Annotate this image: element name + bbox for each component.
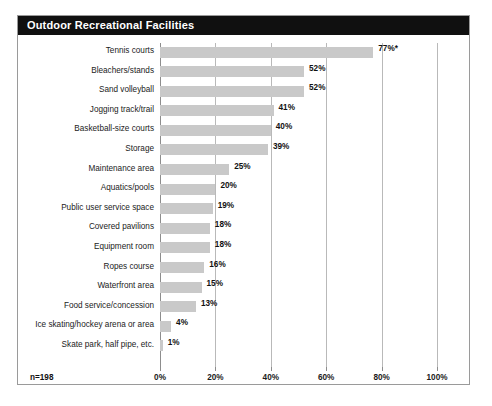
bar-value-label: 18% xyxy=(215,220,231,229)
bar-category-label: Skate park, half pipe, etc. xyxy=(0,340,154,349)
bar-category-label: Sand volleyball xyxy=(0,85,154,94)
bar-category-label: Covered pavilions xyxy=(0,222,154,231)
bar xyxy=(160,340,163,351)
x-tick-label: 80% xyxy=(373,373,389,382)
bar-row: Tennis courts77%* xyxy=(18,43,469,63)
bar-container xyxy=(160,321,171,332)
bar-container xyxy=(160,86,304,97)
x-tick xyxy=(437,367,438,371)
bar-value-label: 1% xyxy=(168,338,180,347)
bar-container xyxy=(160,47,373,58)
bar-row: Ropes course16% xyxy=(18,259,469,279)
bar-container xyxy=(160,340,163,351)
bar-category-label: Tennis courts xyxy=(0,46,154,55)
bar-row: Maintenance area25% xyxy=(18,161,469,181)
page-title: Outdoor Recreational Facilities xyxy=(27,19,194,31)
bar-row: Aquatics/pools20% xyxy=(18,180,469,200)
bar-value-label: 77%* xyxy=(378,44,398,53)
bar xyxy=(160,66,304,77)
chart-card: Outdoor Recreational Facilities Tennis c… xyxy=(17,15,470,385)
bar xyxy=(160,144,268,155)
bar-container xyxy=(160,223,210,234)
x-tick-label: 0% xyxy=(154,373,166,382)
bar-category-label: Food service/concession xyxy=(0,301,154,310)
bar xyxy=(160,86,304,97)
bar-row: Jogging track/trail41% xyxy=(18,102,469,122)
bar xyxy=(160,282,202,293)
bar-value-label: 20% xyxy=(220,181,236,190)
bar-category-label: Maintenance area xyxy=(0,164,154,173)
screenshot-root: Outdoor Recreational Facilities Tennis c… xyxy=(0,0,492,406)
bar-container xyxy=(160,125,271,136)
bar xyxy=(160,105,274,116)
chart-title-bar: Outdoor Recreational Facilities xyxy=(18,16,469,35)
x-tick xyxy=(382,367,383,371)
bar-value-label: 25% xyxy=(234,162,250,171)
bar-value-label: 13% xyxy=(201,299,217,308)
x-tick xyxy=(326,367,327,371)
x-tick-label: 40% xyxy=(263,373,279,382)
x-tick xyxy=(271,367,272,371)
bar-category-label: Bleachers/stands xyxy=(0,66,154,75)
bar-value-label: 16% xyxy=(209,260,225,269)
bar-container xyxy=(160,203,213,214)
bar xyxy=(160,184,215,195)
bar xyxy=(160,203,213,214)
bar-row: Public user service space19% xyxy=(18,200,469,220)
bar-value-label: 18% xyxy=(215,240,231,249)
x-axis: 0%20%40%60%80%100% xyxy=(160,367,437,387)
sample-size-note: n=198 xyxy=(30,373,53,382)
bar-value-label: 52% xyxy=(309,83,325,92)
bar xyxy=(160,301,196,312)
bar-value-label: 19% xyxy=(218,201,234,210)
bar xyxy=(160,47,373,58)
bar-row: Waterfront area15% xyxy=(18,278,469,298)
bar xyxy=(160,321,171,332)
x-tick-label: 20% xyxy=(207,373,223,382)
bar-row: Basketball-size courts40% xyxy=(18,121,469,141)
bar-category-label: Basketball-size courts xyxy=(0,124,154,133)
bar-category-label: Waterfront area xyxy=(0,281,154,290)
bar-container xyxy=(160,144,268,155)
bar-value-label: 4% xyxy=(176,318,188,327)
bar-row: Ice skating/hockey arena or area4% xyxy=(18,317,469,337)
bar-category-label: Public user service space xyxy=(0,203,154,212)
bar-row: Storage39% xyxy=(18,141,469,161)
bar xyxy=(160,262,204,273)
bar-value-label: 41% xyxy=(279,103,295,112)
bar xyxy=(160,125,271,136)
bar-container xyxy=(160,262,204,273)
bar-category-label: Storage xyxy=(0,144,154,153)
bar-container xyxy=(160,301,196,312)
x-tick-label: 60% xyxy=(318,373,334,382)
x-tick xyxy=(215,367,216,371)
bar-rows: Tennis courts77%*Bleachers/stands52%Sand… xyxy=(18,43,469,357)
bar xyxy=(160,223,210,234)
bar-container xyxy=(160,66,304,77)
bar-container xyxy=(160,164,229,175)
bar xyxy=(160,242,210,253)
bar-category-label: Aquatics/pools xyxy=(0,183,154,192)
bar-container xyxy=(160,242,210,253)
x-tick-label: 100% xyxy=(427,373,448,382)
bar-category-label: Ropes course xyxy=(0,262,154,271)
bar xyxy=(160,164,229,175)
bar-category-label: Ice skating/hockey arena or area xyxy=(0,320,154,329)
bar-container xyxy=(160,184,215,195)
bar-row: Equipment room18% xyxy=(18,239,469,259)
bar-value-label: 52% xyxy=(309,64,325,73)
bar-value-label: 40% xyxy=(276,122,292,131)
bar-row: Skate park, half pipe, etc.1% xyxy=(18,337,469,357)
bar-container xyxy=(160,105,274,116)
bar-row: Sand volleyball52% xyxy=(18,82,469,102)
bar-value-label: 39% xyxy=(273,142,289,151)
plot-area: Tennis courts77%*Bleachers/stands52%Sand… xyxy=(18,35,469,385)
bar-value-label: 15% xyxy=(207,279,223,288)
bar-row: Bleachers/stands52% xyxy=(18,63,469,83)
bar-row: Food service/concession13% xyxy=(18,298,469,318)
bar-container xyxy=(160,282,202,293)
bar-category-label: Jogging track/trail xyxy=(0,105,154,114)
x-tick xyxy=(160,367,161,371)
bar-category-label: Equipment room xyxy=(0,242,154,251)
bar-row: Covered pavilions18% xyxy=(18,219,469,239)
